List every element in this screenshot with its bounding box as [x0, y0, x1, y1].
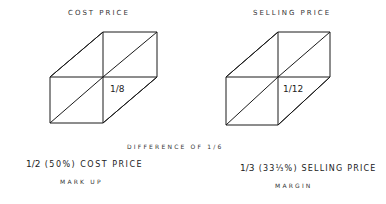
- markup-fraction-value: 1/2: [26, 159, 40, 169]
- markup-label: MARK UP: [60, 178, 103, 185]
- margin-label: MARGIN: [275, 182, 313, 189]
- box-diagrams: [0, 0, 386, 204]
- margin-fraction-value: 1/3: [240, 163, 254, 173]
- markup-percent: (50%) COST PRICE: [45, 160, 143, 169]
- selling-price-box: [226, 32, 330, 125]
- cost-price-box: [50, 32, 157, 123]
- margin-percent: (33⅓%) SELLING PRICE: [259, 164, 377, 173]
- cost-segment-label: 1/8: [110, 84, 124, 94]
- difference-label: DIFFERENCE OF 1/6: [127, 143, 224, 150]
- selling-segment-label: 1/12: [283, 84, 303, 94]
- markup-fraction: 1/2 (50%) COST PRICE: [26, 159, 143, 169]
- margin-fraction: 1/3 (33⅓%) SELLING PRICE: [240, 163, 377, 173]
